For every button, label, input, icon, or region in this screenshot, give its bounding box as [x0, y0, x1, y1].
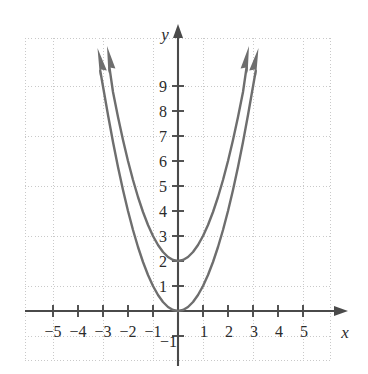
y-axis-label: y — [159, 25, 169, 44]
xtick-label-pos1: 1 — [200, 323, 208, 340]
xtick-label-neg5: −5 — [44, 323, 61, 340]
ytick-label-pos8: 8 — [159, 103, 167, 120]
xtick-label-neg2: −2 — [119, 323, 136, 340]
xtick-label-neg3: −3 — [94, 323, 111, 340]
xtick-label-pos5: 5 — [300, 323, 308, 340]
figure-background — [0, 0, 368, 374]
ytick-label-pos9: 9 — [159, 78, 167, 95]
x-axis-label: x — [340, 323, 349, 342]
ytick-label-pos4: 4 — [159, 203, 167, 220]
xtick-label-neg1: −1 — [144, 323, 161, 340]
xtick-label-neg4: −4 — [69, 323, 86, 340]
xtick-label-pos2: 2 — [225, 323, 233, 340]
ytick-label-pos3: 3 — [159, 228, 167, 245]
ytick-label-pos5: 5 — [159, 178, 167, 195]
ytick-label-neg1: −1 — [160, 333, 177, 350]
xtick-label-pos4: 4 — [275, 323, 283, 340]
xtick-label-pos3: 3 — [250, 323, 258, 340]
ytick-label-pos1: 1 — [159, 278, 167, 295]
parabola-figure: −5 −4 −3 −2 −1 1 2 3 4 5 9 8 7 6 5 4 3 2… — [0, 0, 368, 374]
ytick-label-pos7: 7 — [159, 128, 167, 145]
ytick-label-pos6: 6 — [159, 153, 167, 170]
coordinate-plane: −5 −4 −3 −2 −1 1 2 3 4 5 9 8 7 6 5 4 3 2… — [0, 0, 368, 374]
